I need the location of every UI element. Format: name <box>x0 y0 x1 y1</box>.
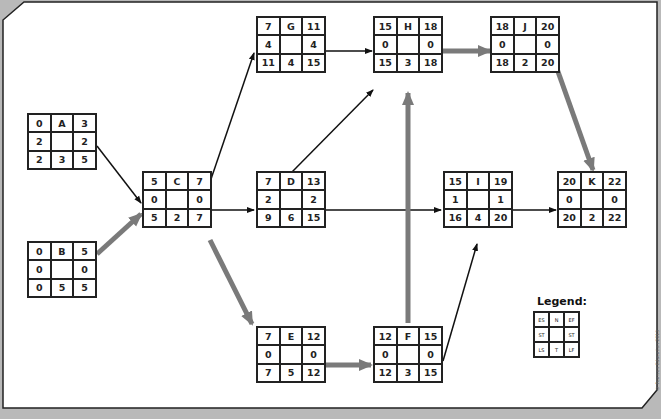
node-slack-right: 0 <box>188 190 211 208</box>
node-K: 20 K 22 0 0 20 2 22 <box>557 171 627 228</box>
node-duration: 3 <box>397 364 420 382</box>
legend-title: Legend: <box>537 295 587 308</box>
node-D: 7 D 13 2 2 9 6 15 <box>256 171 326 228</box>
node-es: 12 <box>374 327 397 345</box>
node-label: B <box>51 242 74 260</box>
node-duration: 4 <box>280 54 303 72</box>
node-es: 15 <box>444 172 467 190</box>
node-slack-right: 0 <box>603 190 626 208</box>
node-ef: 13 <box>302 172 325 190</box>
node-ls: 5 <box>143 209 166 227</box>
node-ef: 15 <box>419 327 442 345</box>
node-es: 0 <box>28 114 51 132</box>
node-es: 15 <box>374 17 397 35</box>
node-es: 7 <box>257 327 280 345</box>
node-slack-left: 0 <box>491 35 514 53</box>
node-center <box>51 132 74 150</box>
node-A: 0 A 3 2 2 2 3 5 <box>27 113 97 170</box>
node-lf: 7 <box>188 209 211 227</box>
node-label: I <box>467 172 490 190</box>
node-duration: 6 <box>280 209 303 227</box>
node-slack-right: 0 <box>302 345 325 363</box>
node-duration: 5 <box>280 364 303 382</box>
node-lf: 20 <box>536 54 559 72</box>
node-ef: 5 <box>73 242 96 260</box>
node-center <box>397 345 420 363</box>
node-lf: 20 <box>489 209 512 227</box>
node-ls: 15 <box>374 54 397 72</box>
node-slack-left: 0 <box>28 260 51 278</box>
node-slack-left: 0 <box>374 35 397 53</box>
node-es: 18 <box>491 17 514 35</box>
node-center <box>280 345 303 363</box>
node-duration: 5 <box>51 279 74 297</box>
node-slack-right: 2 <box>73 132 96 150</box>
node-slack-left: 0 <box>143 190 166 208</box>
node-label: F <box>397 327 420 345</box>
legend-es: ES <box>534 312 549 327</box>
node-ef: 11 <box>302 17 325 35</box>
node-ls: 2 <box>28 151 51 169</box>
legend-t: T <box>549 342 564 357</box>
node-C: 5 C 7 0 0 5 2 7 <box>142 171 212 228</box>
node-slack-right: 2 <box>302 190 325 208</box>
node-label: K <box>581 172 604 190</box>
legend-box: ES N EF ST ST LS T LF <box>533 311 580 358</box>
node-ls: 0 <box>28 279 51 297</box>
node-ef: 19 <box>489 172 512 190</box>
node-slack-left: 0 <box>374 345 397 363</box>
node-F: 12 F 15 0 0 12 3 15 <box>373 326 443 383</box>
node-slack-left: 0 <box>257 345 280 363</box>
node-ls: 20 <box>558 209 581 227</box>
node-center <box>51 260 74 278</box>
node-ef: 12 <box>302 327 325 345</box>
node-es: 5 <box>143 172 166 190</box>
node-lf: 15 <box>302 54 325 72</box>
node-label: E <box>280 327 303 345</box>
node-center <box>166 190 189 208</box>
node-center <box>467 190 490 208</box>
node-label: G <box>280 17 303 35</box>
legend-lf: LF <box>564 342 579 357</box>
node-duration: 2 <box>166 209 189 227</box>
node-duration: 2 <box>581 209 604 227</box>
node-slack-right: 0 <box>536 35 559 53</box>
node-label: H <box>397 17 420 35</box>
node-I: 15 I 19 1 1 16 4 20 <box>443 171 513 228</box>
node-duration: 4 <box>467 209 490 227</box>
node-duration: 3 <box>51 151 74 169</box>
node-H: 15 H 18 0 0 15 3 18 <box>373 16 443 73</box>
node-slack-right: 4 <box>302 35 325 53</box>
node-slack-right: 0 <box>419 35 442 53</box>
node-center <box>280 35 303 53</box>
node-slack-left: 2 <box>28 132 51 150</box>
node-J: 18 J 20 0 0 18 2 20 <box>490 16 560 73</box>
node-center <box>514 35 537 53</box>
node-center <box>280 190 303 208</box>
node-lf: 5 <box>73 279 96 297</box>
node-slack-right: 0 <box>73 260 96 278</box>
node-lf: 15 <box>302 209 325 227</box>
node-E: 7 E 12 0 0 7 5 12 <box>256 326 326 383</box>
copyright-text: © Pearson Education 2013 <box>655 330 660 391</box>
node-center <box>397 35 420 53</box>
node-lf: 15 <box>419 364 442 382</box>
legend-center <box>549 327 564 342</box>
node-lf: 18 <box>419 54 442 72</box>
node-ef: 7 <box>188 172 211 190</box>
node-ef: 18 <box>419 17 442 35</box>
node-ls: 9 <box>257 209 280 227</box>
node-lf: 12 <box>302 364 325 382</box>
node-duration: 3 <box>397 54 420 72</box>
node-duration: 2 <box>514 54 537 72</box>
node-lf: 5 <box>73 151 96 169</box>
node-es: 7 <box>257 17 280 35</box>
node-es: 20 <box>558 172 581 190</box>
node-G: 7 G 11 4 4 11 4 15 <box>256 16 326 73</box>
node-ef: 20 <box>536 17 559 35</box>
node-label: C <box>166 172 189 190</box>
legend-st-left: ST <box>534 327 549 342</box>
node-ls: 18 <box>491 54 514 72</box>
node-ef: 3 <box>73 114 96 132</box>
node-slack-left: 4 <box>257 35 280 53</box>
